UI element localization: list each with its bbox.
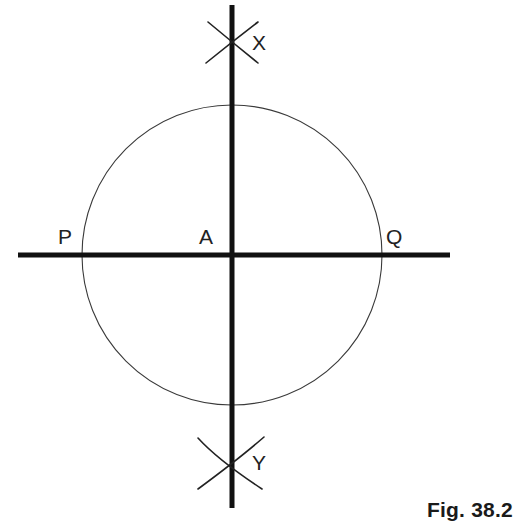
figure-container: g P A Q X Y Fig. 38.2 — [0, 0, 524, 531]
point-label-x: X — [252, 32, 266, 53]
point-label-q: Q — [386, 226, 402, 247]
point-label-p: P — [58, 226, 72, 247]
point-label-y: Y — [252, 452, 266, 473]
point-label-a: A — [199, 226, 213, 247]
figure-caption: Fig. 38.2 — [427, 498, 513, 522]
